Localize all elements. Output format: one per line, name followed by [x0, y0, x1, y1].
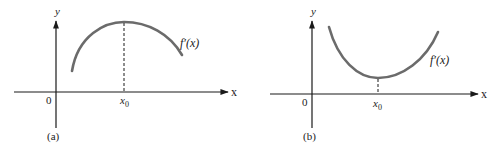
origin-label: 0 [46, 94, 52, 106]
y-axis-label: y [54, 5, 60, 17]
curve-concave-up [329, 27, 438, 78]
x0-label: x0 [372, 97, 382, 112]
panel-caption: (a) [47, 130, 60, 143]
panel-b: y x 0 x0 f′(x) (b) [270, 5, 487, 143]
origin-label: 0 [302, 96, 308, 108]
x-axis-label: x [231, 85, 237, 99]
curve-label: f′(x) [430, 53, 449, 67]
curve-concave-down [72, 22, 182, 71]
y-axis-label: y [310, 5, 316, 17]
panel-caption: (b) [303, 130, 316, 143]
x0-label: x0 [119, 94, 129, 109]
panel-a: y x 0 x0 f′(x) (a) [14, 5, 237, 143]
derivative-figure: y x 0 x0 f′(x) (a) y x 0 x0 f′(x) (b) [0, 0, 500, 151]
x-axis-label: x [481, 87, 487, 101]
curve-label: f′(x) [180, 36, 199, 50]
